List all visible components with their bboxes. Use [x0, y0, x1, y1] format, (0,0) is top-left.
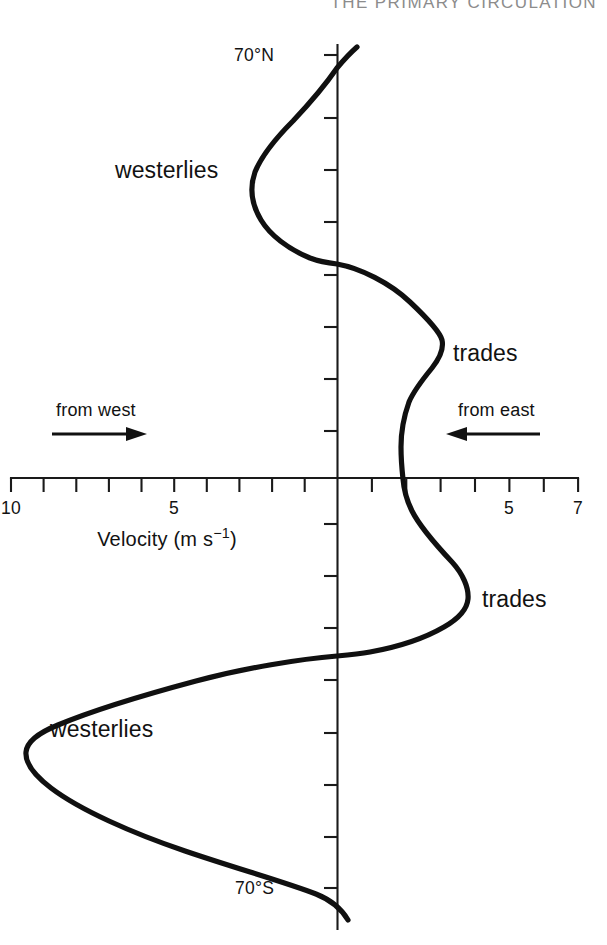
annotation-from-east: from east	[458, 401, 535, 419]
wind-profile-chart	[0, 0, 607, 945]
x-tick-label-left-10: 10	[1, 500, 21, 518]
zonal-wind-profile-curve	[26, 47, 468, 920]
y-axis-label-70s: 70°S	[235, 880, 274, 898]
annotation-from-west: from west	[56, 401, 136, 419]
from-west-arrow	[52, 427, 147, 441]
figure-root: THE PRIMARY CIRCULATION	[0, 0, 607, 945]
annotation-westerlies-south: westerlies	[50, 718, 153, 741]
x-axis-title-prefix: Velocity (m s	[97, 528, 213, 550]
x-axis-title: Velocity (m s−1)	[97, 529, 237, 549]
from-east-arrow	[446, 427, 540, 441]
annotation-westerlies-north: westerlies	[115, 159, 218, 182]
x-tick-label-right-7: 7	[573, 500, 583, 518]
y-axis-label-70n: 70°N	[234, 47, 274, 65]
x-axis-ticks	[11, 478, 578, 492]
x-tick-label-left-5: 5	[169, 500, 179, 518]
x-axis-title-exponent: −1	[213, 525, 230, 541]
y-axis-ticks	[324, 55, 338, 888]
x-axis-title-suffix: )	[230, 528, 237, 550]
annotation-trades-south: trades	[482, 588, 547, 611]
x-tick-label-right-5: 5	[504, 500, 514, 518]
annotation-trades-north: trades	[453, 342, 518, 365]
